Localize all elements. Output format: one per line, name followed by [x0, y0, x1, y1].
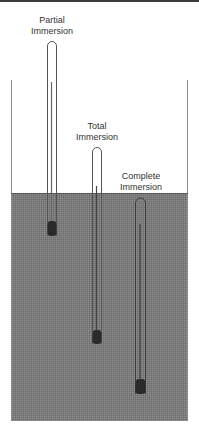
label-partial-line1: Partial — [31, 15, 73, 26]
label-complete-line2: Immersion — [120, 182, 162, 193]
label-complete-line1: Complete — [120, 171, 162, 182]
liquid-bath — [11, 193, 188, 420]
label-total-line1: Total — [76, 121, 118, 132]
immersion-diagram — [0, 0, 199, 438]
label-total: Total Immersion — [76, 121, 118, 143]
label-total-line2: Immersion — [76, 132, 118, 143]
label-partial: Partial Immersion — [31, 15, 73, 37]
label-partial-line2: Immersion — [31, 26, 73, 37]
bulb-total — [93, 330, 102, 344]
bulb-partial — [48, 221, 57, 236]
label-complete: Complete Immersion — [120, 171, 162, 193]
bulb-complete — [136, 379, 146, 394]
